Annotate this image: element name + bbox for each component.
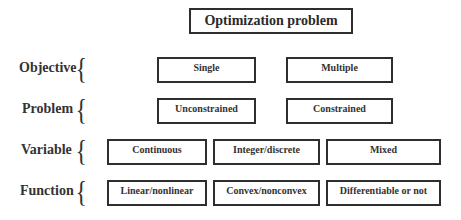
option-label: Single [193, 62, 219, 73]
option-label: Mixed [370, 144, 397, 155]
option-mixed: Mixed [326, 139, 441, 165]
option-label: Linear/nonlinear [121, 185, 194, 196]
option-label: Convex/nonconvex [226, 185, 307, 196]
option-convex-nonconvex: Convex/nonconvex [213, 180, 320, 206]
option-unconstrained: Unconstrained [157, 98, 256, 124]
option-integer-discrete: Integer/discrete [213, 139, 320, 165]
option-continuous: Continuous [107, 139, 207, 165]
option-linear-nonlinear: Linear/nonlinear [107, 180, 207, 206]
title-box: Optimization problem [189, 8, 353, 34]
option-label: Unconstrained [175, 103, 238, 114]
option-label: Continuous [132, 144, 181, 155]
option-label: Differentiable or not [340, 185, 427, 196]
brace-icon: { [75, 176, 87, 206]
option-differentiable-or-not: Differentiable or not [326, 180, 441, 206]
row-label-problem: Problem [22, 101, 73, 117]
row-label-function: Function [20, 183, 74, 199]
option-single: Single [157, 57, 256, 83]
option-label: Constrained [313, 103, 366, 114]
brace-icon: { [75, 135, 87, 165]
option-label: Multiple [321, 62, 358, 73]
brace-icon: { [75, 94, 87, 124]
row-label-objective: Objective [19, 60, 77, 76]
brace-icon: { [75, 53, 87, 83]
option-constrained: Constrained [286, 98, 393, 124]
option-label: Integer/discrete [233, 144, 300, 155]
row-label-variable: Variable [21, 142, 72, 158]
option-multiple: Multiple [286, 57, 393, 83]
title-text: Optimization problem [204, 13, 337, 28]
